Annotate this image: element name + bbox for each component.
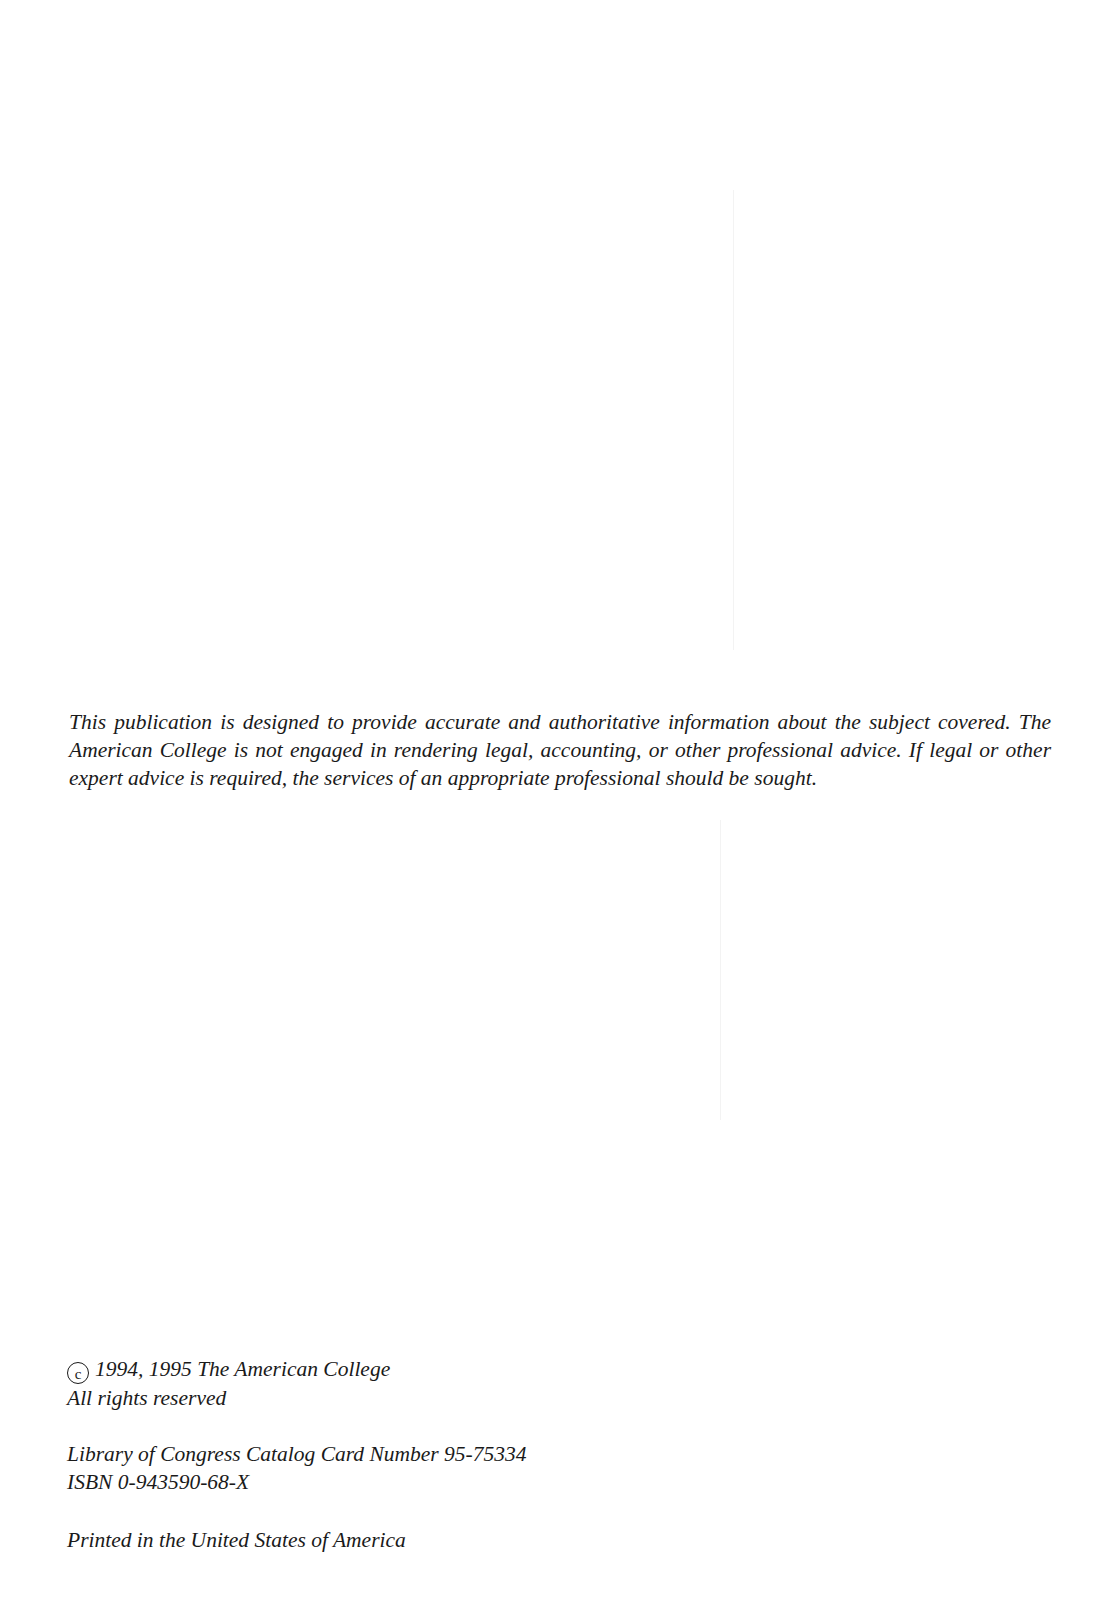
scan-artifact bbox=[720, 820, 721, 1120]
catalog-info: Library of Congress Catalog Card Number … bbox=[67, 1440, 527, 1496]
isbn-number: ISBN 0-943590-68-X bbox=[67, 1468, 527, 1496]
printed-location: Printed in the United States of America bbox=[67, 1526, 406, 1554]
copyright-notice: c1994, 1995 The American College All rig… bbox=[67, 1355, 390, 1412]
disclaimer-paragraph: This publication is designed to provide … bbox=[69, 708, 1051, 792]
copyright-page: This publication is designed to provide … bbox=[0, 0, 1109, 1608]
copyright-years-holder: 1994, 1995 The American College bbox=[95, 1357, 390, 1381]
lccn-number: Library of Congress Catalog Card Number … bbox=[67, 1440, 527, 1468]
scan-artifact bbox=[733, 190, 734, 650]
copyright-line: c1994, 1995 The American College bbox=[67, 1355, 390, 1384]
rights-reserved: All rights reserved bbox=[67, 1384, 390, 1412]
printed-text: Printed in the United States of America bbox=[67, 1526, 406, 1554]
copyright-icon: c bbox=[67, 1362, 89, 1384]
disclaimer-text: This publication is designed to provide … bbox=[69, 708, 1051, 792]
